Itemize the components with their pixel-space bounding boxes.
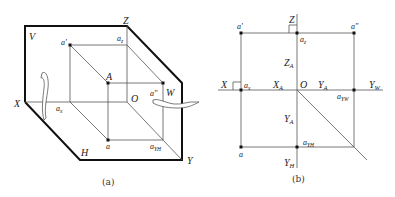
label-a: a — [239, 150, 243, 159]
label-distance-X-A: XA — [272, 79, 283, 91]
label-a: a — [106, 142, 110, 151]
label-a-double-prime: a" — [150, 89, 158, 98]
point-a-double-prime — [162, 82, 165, 85]
label-a-YH: aYH — [303, 138, 315, 148]
label-a-YH: aYH — [150, 142, 162, 152]
label-origin-O: O — [300, 79, 307, 90]
label-origin-O: O — [131, 93, 138, 104]
label-axis-X: X — [220, 79, 228, 90]
projection-diagrams: V H W Z X Y O A a' a" a az ax aYH (a) — [0, 0, 395, 197]
point-a-prime — [240, 32, 243, 35]
label-a-prime: a' — [61, 38, 67, 47]
label-plane-H: H — [80, 147, 89, 158]
label-axis-Z: Z — [123, 15, 129, 26]
label-distance-Y-A-horizontal: YA — [318, 79, 328, 91]
label-axis-Y-W: YW — [369, 79, 381, 91]
label-a-prime: a' — [237, 22, 243, 31]
label-axis-X: X — [13, 98, 21, 109]
label-a-YW: aYW — [337, 92, 349, 102]
line-az-adoubleprime — [127, 45, 163, 83]
label-axis-Z: Z — [289, 14, 295, 25]
caption-a: (a) — [102, 177, 114, 187]
figure-a: V H W Z X Y O A a' a" a az ax aYH (a) — [13, 15, 199, 187]
point-a-x — [240, 89, 243, 92]
figure-b: Z X O YW YH a' a" a az ax aYW aYH ZA XA … — [218, 14, 383, 184]
label-plane-V: V — [29, 31, 37, 42]
point-a-double-prime — [353, 32, 356, 35]
label-axis-Y-H: YH — [284, 157, 295, 169]
label-plane-W: W — [166, 87, 176, 98]
diagonal-45-line — [297, 90, 367, 160]
label-distance-Y-A-vertical: YA — [284, 113, 294, 125]
label-a-double-prime: a" — [351, 22, 359, 31]
point-a — [240, 146, 243, 149]
label-a-z: az — [300, 35, 307, 45]
rotation-arrow-w-plane-icon — [153, 100, 199, 108]
point-a-z — [296, 32, 299, 35]
point-a-YH — [296, 146, 299, 149]
label-axis-Y: Y — [187, 155, 194, 166]
line-ax-a — [70, 102, 108, 140]
label-point-A: A — [105, 71, 113, 82]
caption-b: (b) — [292, 174, 305, 184]
point-a-YW — [353, 89, 356, 92]
label-a-x: ax — [56, 104, 63, 114]
label-a-z: az — [117, 34, 124, 44]
label-distance-Z-A: ZA — [284, 57, 294, 69]
label-a-x: ax — [244, 81, 251, 91]
line-aprime-A — [70, 45, 108, 83]
point-a-prime — [69, 44, 72, 47]
rotation-arrow-h-plane-icon — [41, 72, 48, 120]
